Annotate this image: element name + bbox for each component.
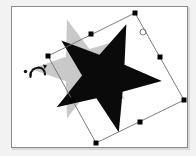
canvas-drop-shadow-right — [188, 7, 190, 149]
app-root: Drawing canvas Rotate Original star prev… — [0, 0, 196, 156]
handle-left[interactable] — [46, 54, 51, 59]
handle-top[interactable] — [133, 11, 138, 16]
rotate-cursor-icon — [24, 65, 47, 78]
handle-top-left[interactable] — [89, 32, 94, 37]
rotation-center-circle[interactable] — [140, 29, 146, 35]
active-star-layer[interactable] — [37, 7, 176, 140]
selection-bounding-box[interactable] — [48, 13, 184, 143]
handle-bottom-left[interactable] — [70, 98, 75, 103]
canvas-surface[interactable] — [12, 7, 187, 147]
rotate-cursor-dot — [24, 70, 27, 73]
rotate-cursor-arc — [31, 68, 46, 76]
selection-handles[interactable] — [46, 11, 187, 146]
handle-bottom-right[interactable] — [138, 120, 143, 125]
active-star-shape[interactable] — [37, 7, 176, 140]
rotate-cursor-arrowhead — [43, 65, 47, 70]
ghost-star-shape — [20, 7, 143, 124]
ghost-star-layer — [20, 7, 143, 124]
selection-outline[interactable] — [48, 13, 184, 143]
handle-top-right[interactable] — [158, 55, 163, 60]
canvas-frame[interactable]: Drawing canvas Rotate Original star prev… — [11, 6, 188, 148]
handle-right[interactable] — [182, 98, 187, 103]
canvas-drop-shadow-bottom — [12, 148, 190, 150]
handle-bottom[interactable] — [94, 141, 99, 146]
rotation-center-marker[interactable] — [140, 29, 146, 35]
